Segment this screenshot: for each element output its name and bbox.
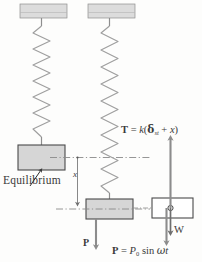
displacement-dimension-x: [76, 156, 78, 204]
time-symbol: t: [165, 245, 168, 256]
ceiling-support-left: [20, 4, 67, 18]
forcing-lhs: P: [112, 245, 118, 256]
equilibrium-label: Equilibrium: [3, 175, 61, 187]
sin-operator: sin: [142, 245, 154, 256]
delta-subscript: st: [154, 129, 158, 136]
forcing-amplitude-subscript: 0: [136, 250, 139, 257]
forcing-equation: P = P0 sin ωt: [112, 245, 168, 258]
spring-mid: [101, 26, 118, 193]
tension-lhs: T: [121, 124, 128, 135]
forcing-equals: =: [121, 245, 127, 256]
force-label-P-mid: P: [83, 238, 89, 248]
displacement-label: x: [73, 170, 77, 179]
spring-mass-figure: Equilibrium x P W T = k(δst + x) P = P0 …: [0, 0, 202, 262]
panel-equilibrium-position: [18, 4, 67, 186]
tension-equation: T = k(δst + x): [121, 124, 178, 137]
tension-equals: =: [131, 124, 137, 135]
ceiling-support-mid: [88, 4, 135, 18]
tension-close-paren: ): [175, 124, 179, 135]
panel-free-body-diagram: [133, 138, 193, 243]
weight-label-W: W: [174, 225, 184, 236]
tension-plus: +: [161, 124, 167, 135]
mass-block-equilibrium: [18, 145, 65, 170]
spring-left: [33, 26, 50, 137]
